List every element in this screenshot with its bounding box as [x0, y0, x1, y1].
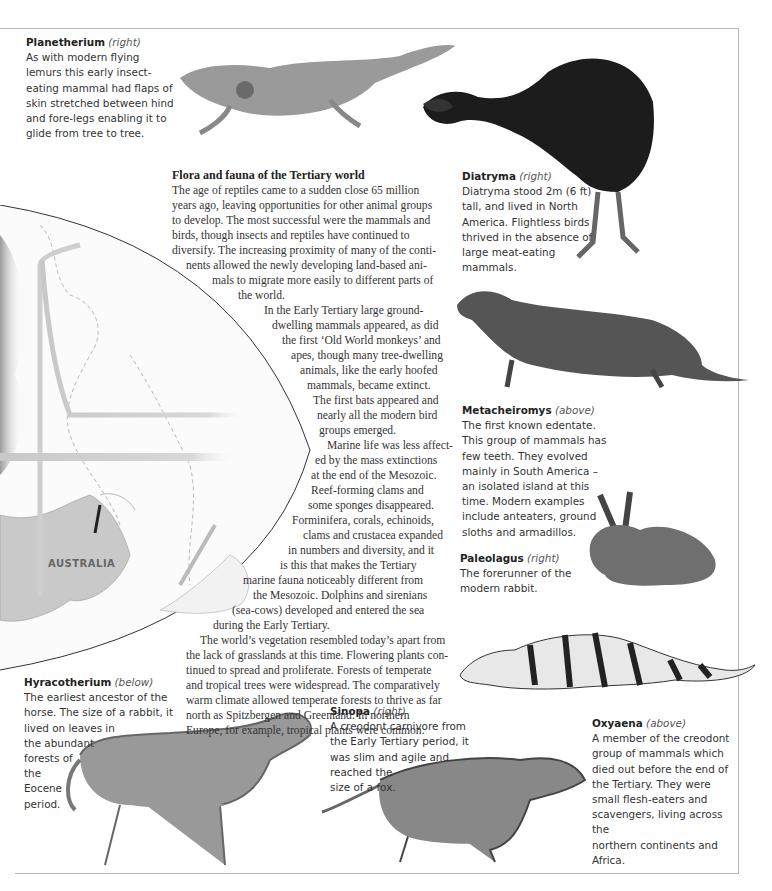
article-line: The first bats appeared and — [313, 393, 439, 408]
article-line: is this that makes the Tertiary — [280, 558, 416, 573]
article-line: Forminifera, corals, echinoids, — [292, 513, 434, 528]
article-line: the Mesozoic. Dolphins and sirenians — [253, 588, 427, 603]
article-line: ed by the mass extinctions — [315, 453, 437, 468]
article-line: at the end of the Mesozoic. — [311, 468, 437, 483]
article-line: tinued to spread and proliferate. Forest… — [186, 663, 431, 678]
article-line: mals to migrate more easily to different… — [212, 273, 433, 288]
article-line: north as Spitzbergen and Greenland. In n… — [186, 708, 410, 723]
article-line: birds, though insects and reptiles have … — [172, 228, 410, 243]
article-line: dwelling mammals appeared, as did — [272, 318, 438, 333]
article-line: The world’s vegetation resembled today’s… — [200, 633, 445, 648]
article-line: the first ‘Old World monkeys’ and — [282, 333, 441, 348]
article-line: (sea-cows) developed and entered the sea — [232, 603, 424, 618]
article-line: years ago, leaving opportunities for oth… — [172, 198, 432, 213]
article-line: diversify. The increasing proximity of m… — [172, 243, 436, 258]
article-line: Europe, for example, tropical plants wer… — [186, 723, 425, 738]
article-line: Marine life was less affect- — [327, 438, 453, 453]
article-line: groups emerged. — [319, 423, 396, 438]
article-line: animals, like the early hoofed — [300, 363, 437, 378]
article-line: the lack of grasslands at this time. Flo… — [186, 648, 448, 663]
article-line: mammals, became extinct. — [307, 378, 431, 393]
article-line: during the Early Tertiary. — [213, 618, 330, 633]
article-line: nents allowed the newly developing land-… — [186, 258, 427, 273]
article-line: the world. — [238, 288, 285, 303]
article-line: nearly all the modern bird — [317, 408, 437, 423]
article-title: Flora and fauna of the Tertiary world — [172, 168, 365, 183]
article-line: In the Early Tertiary large ground- — [264, 303, 423, 318]
article-line: The age of reptiles came to a sudden clo… — [172, 183, 419, 198]
article-line: to develop. The most successful were the… — [172, 213, 430, 228]
article-line: clams and crustacea expanded — [303, 528, 443, 543]
article-line: marine fauna noticeably different from — [243, 573, 423, 588]
article-line: and tropical trees were widespread. The … — [186, 678, 440, 693]
article-line: in numbers and diversity, and it — [288, 543, 434, 558]
article-line: Reef-forming clams and — [311, 483, 424, 498]
article-line: warm climate allowed temperate forests t… — [186, 693, 442, 708]
article-line: apes, though many tree-dwelling — [291, 348, 443, 363]
article-line: some sponges disappeared. — [308, 498, 434, 513]
article-flora-fauna: Flora and fauna of the Tertiary world Th… — [0, 0, 772, 891]
